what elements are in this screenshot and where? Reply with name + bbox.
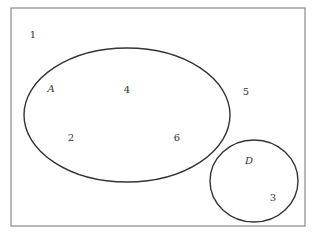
set-a-boundary [24, 48, 230, 182]
element-2: 2 [68, 132, 74, 143]
element-5: 5 [243, 86, 249, 97]
element-3: 3 [270, 192, 276, 203]
universal-set-box [11, 8, 305, 226]
set-a-label: A [46, 83, 54, 94]
element-1: 1 [30, 29, 36, 40]
element-4: 4 [124, 84, 130, 95]
element-6: 6 [174, 132, 180, 143]
venn-diagram: AD 145263 [0, 0, 312, 237]
set-d-label: D [244, 155, 253, 166]
set-d-boundary [210, 140, 298, 222]
